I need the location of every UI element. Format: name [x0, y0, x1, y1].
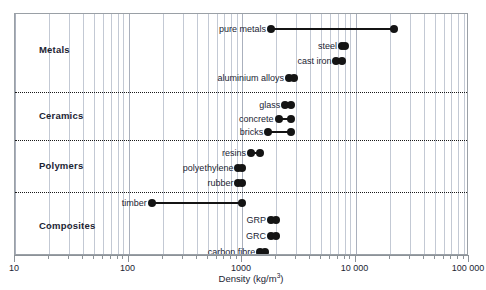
- row-label: carbon fibre: [208, 245, 261, 255]
- range-max-dot: [390, 25, 398, 33]
- axis-tick: [443, 255, 444, 259]
- data-row: aluminium alloys: [15, 71, 467, 85]
- axis-tick-label: 100: [120, 263, 135, 273]
- data-row: cast iron: [15, 54, 467, 68]
- axis-tick: [68, 255, 69, 259]
- data-row: steel: [15, 39, 467, 53]
- range-max-dot: [272, 232, 280, 240]
- axis-tick: [236, 255, 237, 259]
- data-row: bricks: [15, 125, 467, 139]
- range-min-dot: [267, 25, 275, 33]
- axis-tick: [329, 255, 330, 259]
- range-max-dot: [287, 101, 295, 109]
- range-max-dot: [256, 149, 264, 157]
- axis-tick: [241, 255, 242, 262]
- axis-tick: [182, 255, 183, 259]
- axis-tick: [93, 255, 94, 259]
- axis-tick-label: 100 000: [452, 263, 485, 273]
- range-bar: [152, 202, 242, 204]
- axis-tick: [457, 255, 458, 259]
- row-label: polyethylene: [183, 161, 239, 175]
- axis-tick: [207, 255, 208, 259]
- range-max-dot: [238, 179, 246, 187]
- range-max-dot: [238, 199, 246, 207]
- row-label: concrete: [239, 112, 279, 126]
- axis-tick: [275, 255, 276, 259]
- range-min-dot: [275, 115, 283, 123]
- data-row: concrete: [15, 112, 467, 126]
- row-label: pure metals: [219, 22, 271, 36]
- row-label: aluminium alloys: [218, 71, 290, 85]
- axis-tick: [463, 255, 464, 259]
- range-max-dot: [338, 57, 346, 65]
- axis-tick: [423, 255, 424, 259]
- plot-area: MetalsCeramicsPolymersComposites pure me…: [14, 13, 468, 255]
- group-separator: [15, 192, 467, 193]
- axis-tick: [349, 255, 350, 259]
- range-max-dot: [238, 164, 246, 172]
- data-row: GRC: [15, 229, 467, 243]
- range-max-dot: [341, 42, 349, 50]
- axis-tick: [162, 255, 163, 259]
- axis-tick: [230, 255, 231, 259]
- data-row: timber: [15, 196, 467, 210]
- range-max-dot: [272, 216, 280, 224]
- density-chart: MetalsCeramicsPolymersComposites pure me…: [0, 0, 486, 290]
- axis-tick: [434, 255, 435, 259]
- axis-tick: [355, 255, 356, 262]
- range-max-dot: [287, 115, 295, 123]
- axis-tick-label: 10 000: [341, 263, 369, 273]
- group-separator: [15, 92, 467, 93]
- axis-tick: [102, 255, 103, 259]
- axis-tick: [223, 255, 224, 259]
- axis-tick: [48, 255, 49, 259]
- axis-tick: [450, 255, 451, 259]
- data-row: rubber: [15, 176, 467, 190]
- axis-tick: [110, 255, 111, 259]
- axis-tick: [309, 255, 310, 259]
- range-max-dot: [261, 248, 269, 255]
- range-bar: [271, 28, 394, 30]
- range-max-dot: [290, 74, 298, 82]
- axis-tick: [117, 255, 118, 259]
- axis-tick: [389, 255, 390, 259]
- range-min-dot: [247, 149, 255, 157]
- x-axis-title-main: Density (kg/m: [219, 273, 277, 284]
- range-min-dot: [264, 128, 272, 136]
- axis-tick: [468, 255, 469, 262]
- axis-tick-label: 10: [9, 263, 19, 273]
- x-axis-title-tail: ): [280, 273, 283, 284]
- data-row: carbon fibre: [15, 245, 467, 255]
- axis-tick: [337, 255, 338, 259]
- data-row: resins: [15, 146, 467, 160]
- axis-tick: [320, 255, 321, 259]
- axis-tick: [14, 255, 15, 262]
- axis-tick: [409, 255, 410, 259]
- axis-tick: [344, 255, 345, 259]
- axis-tick: [196, 255, 197, 259]
- axis-tick: [82, 255, 83, 259]
- data-row: polyethylene: [15, 161, 467, 175]
- axis-tick: [295, 255, 296, 259]
- range-max-dot: [287, 128, 295, 136]
- row-label: cast iron: [297, 54, 336, 68]
- x-axis-title: Density (kg/m3): [219, 272, 284, 284]
- data-row: pure metals: [15, 22, 467, 36]
- axis-tick: [122, 255, 123, 259]
- axis-tick: [128, 255, 129, 262]
- data-row: GRP: [15, 213, 467, 227]
- axis-tick: [216, 255, 217, 259]
- data-row: glass: [15, 98, 467, 112]
- group-separator: [15, 140, 467, 141]
- range-min-dot: [148, 199, 156, 207]
